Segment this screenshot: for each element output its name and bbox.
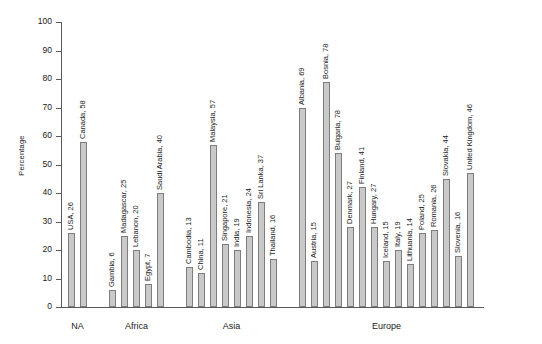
bar-group-item: India, 19 <box>234 0 241 307</box>
bar[interactable] <box>234 250 241 307</box>
bar-value-label: Italy, 19 <box>393 221 401 247</box>
bar-value-label: Bosnia, 78 <box>321 43 329 78</box>
bar-value-label: Madagascar, 25 <box>119 179 127 232</box>
bar-group-item: Saudi Arabia, 40 <box>157 0 164 307</box>
bar[interactable] <box>455 256 462 307</box>
bar[interactable] <box>407 264 414 307</box>
bar-value-label: Singapore, 21 <box>220 195 228 242</box>
y-axis-tick-label: 70 <box>43 102 52 113</box>
y-axis-tick-label: 40 <box>43 187 52 198</box>
bar[interactable] <box>246 236 253 307</box>
bar[interactable] <box>299 108 306 308</box>
bar[interactable] <box>467 173 474 307</box>
y-axis-tick-label: 10 <box>43 273 52 284</box>
bar-value-label: USA, 26 <box>66 202 74 230</box>
bar[interactable] <box>395 250 402 307</box>
bar[interactable] <box>157 193 164 307</box>
bar-group-item: USA, 26 <box>68 0 75 307</box>
bar[interactable] <box>311 261 318 307</box>
bar-value-label: Denmark, 27 <box>345 181 353 224</box>
y-axis-tick-label: 100 <box>38 16 52 27</box>
bar-group-item: Slovakia, 44 <box>443 0 450 307</box>
bar-value-label: China, 11 <box>196 238 204 270</box>
bar[interactable] <box>359 187 366 307</box>
bar-value-label: United Kingdom, 46 <box>465 104 473 170</box>
bar[interactable] <box>222 244 229 307</box>
bar-group-item: Slovenia, 16 <box>455 0 462 307</box>
bar[interactable] <box>443 179 450 307</box>
group-axis-label: Europe <box>259 321 514 331</box>
y-axis-tick-label: 20 <box>43 244 52 255</box>
y-axis-tick-label: 60 <box>43 130 52 141</box>
bar[interactable] <box>371 227 378 307</box>
bar[interactable] <box>270 259 277 307</box>
bar-group-item: Bosnia, 78 <box>323 0 330 307</box>
bar-value-label: Iceland, 15 <box>381 222 389 259</box>
bar[interactable] <box>133 250 140 307</box>
bar-value-label: Indonesia, 24 <box>244 188 252 233</box>
bar-group-item: Gambia, 6 <box>109 0 116 307</box>
y-axis-tick-label: 50 <box>43 159 52 170</box>
bar-group-item: Hungary, 27 <box>371 0 378 307</box>
bar[interactable] <box>323 82 330 307</box>
bar-value-label: Austria, 15 <box>309 223 317 259</box>
bar-value-label: Lithuania, 14 <box>405 218 413 261</box>
bar-value-label: Saudi Arabia, 40 <box>155 135 163 190</box>
bar-group-item: Austria, 15 <box>311 0 318 307</box>
bar-chart: Percentage 1009080706050403020100 USA, 2… <box>0 0 542 344</box>
bar-value-label: Romania, 26 <box>429 185 437 228</box>
bar[interactable] <box>109 290 116 307</box>
bar[interactable] <box>121 236 128 307</box>
y-axis-tick-label: 30 <box>43 216 52 227</box>
bar-group-item: Canada, 58 <box>80 0 87 307</box>
y-axis-tick-label: 90 <box>43 45 52 56</box>
bar[interactable] <box>80 142 87 307</box>
bar-group-item: Lebanon, 20 <box>133 0 140 307</box>
bar[interactable] <box>258 202 265 307</box>
bar[interactable] <box>210 145 217 307</box>
bar-group-item: Iceland, 15 <box>383 0 390 307</box>
bar-value-label: Thailand, 16 <box>268 214 276 255</box>
bar-value-label: Poland, 25 <box>417 194 425 230</box>
bar[interactable] <box>419 233 426 307</box>
bar-group-item: Romania, 26 <box>431 0 438 307</box>
bar-group-item: Madagascar, 25 <box>121 0 128 307</box>
bar-group-item: United Kingdom, 46 <box>467 0 474 307</box>
bar-group-item: Italy, 19 <box>395 0 402 307</box>
bar-group-item: Sri Lanka, 37 <box>258 0 265 307</box>
bar-value-label: Lebanon, 20 <box>131 205 139 247</box>
bar-value-label: Slovenia, 16 <box>453 211 461 252</box>
bar[interactable] <box>431 230 438 307</box>
bar[interactable] <box>347 227 354 307</box>
bar-group-item: Lithuania, 14 <box>407 0 414 307</box>
bar[interactable] <box>186 267 193 307</box>
bar[interactable] <box>335 153 342 307</box>
bar-value-label: Cambodia, 13 <box>184 217 192 264</box>
bar-group-item: Thailand, 16 <box>270 0 277 307</box>
bar-group-item: Albania, 69 <box>299 0 306 307</box>
bar-value-label: Finland, 41 <box>357 147 365 184</box>
bar-value-label: Slovakia, 44 <box>441 135 449 176</box>
bar[interactable] <box>383 261 390 307</box>
bar-group-item: Cambodia, 13 <box>186 0 193 307</box>
bar-group-item: China, 11 <box>198 0 205 307</box>
bar-value-label: Egypt, 7 <box>143 254 151 282</box>
y-axis: 1009080706050403020100 <box>0 0 62 344</box>
bar-group-item: Indonesia, 24 <box>246 0 253 307</box>
bar-value-label: Sri Lanka, 37 <box>256 154 264 198</box>
bar-group-item: Malaysia, 57 <box>210 0 217 307</box>
bar-value-label: Malaysia, 57 <box>208 99 216 141</box>
bar[interactable] <box>198 273 205 307</box>
bar-group-item: Denmark, 27 <box>347 0 354 307</box>
bar-group-item: Egypt, 7 <box>145 0 152 307</box>
bar-group-item: Finland, 41 <box>359 0 366 307</box>
plot-area: USA, 26Canada, 58Gambia, 6Madagascar, 25… <box>62 0 487 344</box>
bar-group-item: Singapore, 21 <box>222 0 229 307</box>
bar-group-item: Poland, 25 <box>419 0 426 307</box>
bar[interactable] <box>145 284 152 307</box>
bar[interactable] <box>68 233 75 307</box>
x-axis-baseline <box>61 307 484 308</box>
bar-value-label: Albania, 69 <box>297 67 305 105</box>
bar-value-label: Bulgaria, 78 <box>333 110 341 150</box>
bar-value-label: Canada, 58 <box>78 100 86 139</box>
